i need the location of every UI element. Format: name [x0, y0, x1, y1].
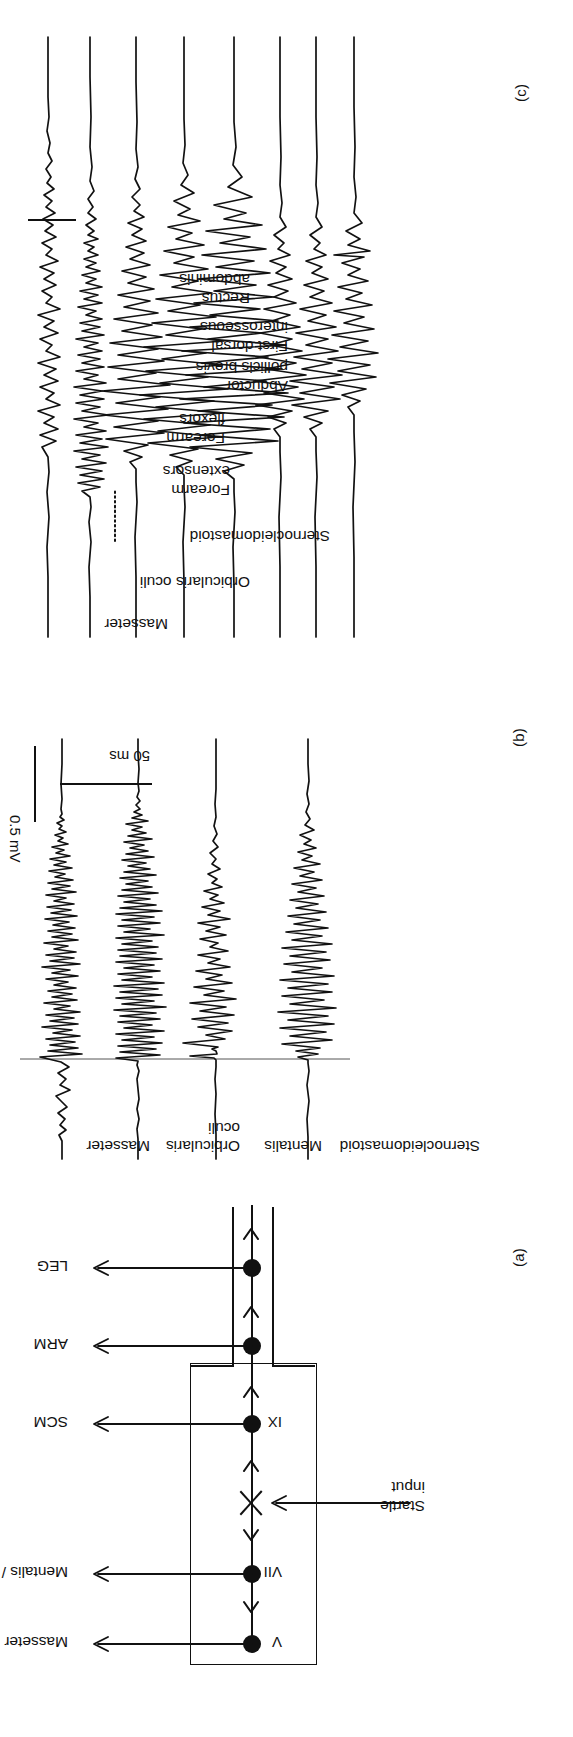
panel-c-label-rectus-line2: abdominis	[179, 271, 250, 288]
panel-c-label-forearm-extensors-line2: extensors	[163, 463, 230, 480]
trace-masseter	[40, 739, 82, 1159]
amplitude-scale-bar	[34, 746, 36, 822]
trace-sternocleidomastoid	[278, 739, 336, 1159]
panel-b-label-sternocleidomastoid: Sternocleidomastoid	[340, 1138, 480, 1155]
panel-c-label-forearm-flexors-line1: Forearm	[166, 430, 225, 447]
trace-c-sternocleidomastoid	[102, 37, 170, 637]
panel-b: (b) Masseter Orbicularis oculi Mentalis …	[0, 657, 573, 1177]
output-arrows	[80, 1197, 255, 1667]
panel-b-tag: (b)	[510, 728, 527, 747]
panel-c: (c)	[0, 0, 573, 657]
panel-c-label-masseter: Masseter	[104, 616, 168, 633]
panel-c-traces	[18, 37, 368, 637]
panel-b-label-orbicularis-oculi-line1: Orbicularis	[166, 1138, 240, 1155]
panel-c-label-rectus-line1: Rectus	[202, 290, 250, 307]
panel-c-label-forearm-extensors-line1: Forearm	[171, 482, 230, 499]
trace-c-abductor-pollicis-brevis	[254, 37, 306, 637]
output-label-scm: SCM	[34, 1414, 68, 1431]
panel-c-label-abductor-line1: Abductor	[226, 378, 288, 395]
panel-b-label-mentalis: Mentalis	[264, 1138, 322, 1155]
node-label-v: V	[272, 1634, 282, 1651]
output-label-mentalis-oo: Mentalis / O.O.	[0, 1564, 68, 1581]
trace-c-masseter	[38, 37, 60, 637]
trace-mentalis	[183, 739, 236, 1159]
trace-c-forearm-flexors	[180, 37, 288, 637]
time-scale-bar	[60, 783, 152, 785]
panel-c-label-abductor-line2: pollicis brevis	[196, 359, 288, 376]
panel-a: (a)	[0, 1177, 573, 1737]
trace-orbicularis-oculi	[114, 739, 166, 1159]
rotated-figure-stage: (a)	[0, 0, 573, 1737]
output-label-masseter: Masseter	[4, 1634, 68, 1651]
trace-c-orbicularis-oculi	[74, 37, 108, 637]
panel-c-label-sternocleidomastoid: Sternocleidomastoid	[190, 528, 330, 545]
panel-b-label-orbicularis-oculi-line2: oculi	[208, 1120, 240, 1137]
panel-b-label-masseter: Masseter	[86, 1138, 150, 1155]
trace-c-forearm-extensors	[140, 37, 228, 637]
output-label-arm: ARM	[34, 1336, 68, 1353]
startle-input-arrow	[262, 1467, 412, 1527]
panel-c-label-orbicularis-oculi: Orbicularis oculi	[140, 574, 250, 591]
startle-input-label-line1: Startle	[380, 1498, 425, 1515]
figure-root: (a)	[0, 0, 573, 1737]
panel-a-tag: (a)	[510, 1248, 527, 1267]
startle-input-label-line2: input	[391, 1479, 425, 1496]
cord-rail-bottom	[272, 1207, 274, 1367]
output-label-leg: LEG	[37, 1258, 68, 1275]
cord-rail-bottom-step	[272, 1365, 315, 1367]
panel-c-label-forearm-flexors-line2: flexors	[179, 411, 225, 428]
panel-c-label-first-dorsal-line2: interosseous	[200, 319, 288, 336]
panel-c-tag: (c)	[512, 84, 529, 102]
amplitude-scale-label: 0.5 mV	[7, 815, 24, 863]
panel-b-traces	[20, 739, 350, 1159]
trace-c-first-dorsal-interosseous	[290, 37, 342, 637]
trace-c-rectus-abdominis	[328, 37, 378, 637]
time-scale-label: 50 ms	[109, 748, 150, 765]
panel-c-scale-bar	[28, 219, 76, 221]
node-label-vii: VII	[264, 1564, 282, 1581]
panel-c-label-first-dorsal-line1: First dorsal	[211, 338, 288, 355]
node-label-ix: IX	[268, 1414, 282, 1431]
